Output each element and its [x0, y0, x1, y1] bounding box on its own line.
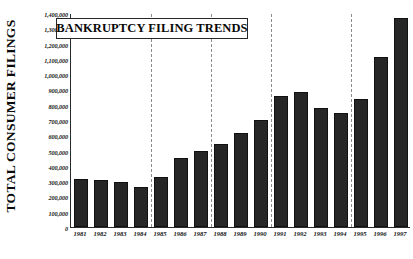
bar-slot [291, 14, 311, 227]
y-axis-tick-label: 400,000 [49, 163, 68, 170]
x-axis-tick-label: 1996 [370, 230, 390, 237]
x-axis-tick-label: 1990 [250, 230, 270, 237]
x-axis-tick-label: 1982 [90, 230, 110, 237]
bar-slot [351, 14, 371, 227]
y-axis-tick-label: 0 [65, 225, 68, 232]
x-axis-tick-label: 1983 [110, 230, 130, 237]
bar-slot [391, 14, 411, 227]
y-axis-tick-label: 800,000 [49, 102, 68, 109]
y-axis-tick-label: 300,000 [49, 179, 68, 186]
bar [214, 144, 227, 227]
bar-series [71, 14, 410, 227]
y-axis-title: TOTAL CONSUMER FILINGS [0, 0, 22, 232]
bar [274, 96, 287, 227]
x-axis-tick-label: 1994 [330, 230, 350, 237]
bar [194, 151, 207, 227]
bar-slot [151, 14, 171, 227]
y-axis-tick-label: 500,000 [49, 148, 68, 155]
x-axis-tick-label: 1991 [270, 230, 290, 237]
bar [374, 57, 387, 227]
x-axis-tick-label: 1995 [350, 230, 370, 237]
y-axis-tick-label: 600,000 [49, 133, 68, 140]
bar [94, 180, 107, 227]
y-axis-tick-label: 1,200,000 [44, 41, 68, 48]
bar [234, 133, 247, 227]
y-axis-tick-label: 700,000 [49, 118, 68, 125]
bar-slot [111, 14, 131, 227]
y-axis-tick-label: 100,000 [49, 209, 68, 216]
bar [74, 179, 87, 227]
bar-slot [251, 14, 271, 227]
bar [254, 120, 267, 227]
bar-slot [211, 14, 231, 227]
bar-slot [311, 14, 331, 227]
y-axis-tick-label: 1,400,000 [44, 11, 68, 18]
chart-title-box: BANKRUPTCY FILING TRENDS [56, 18, 248, 39]
bar [134, 187, 147, 228]
x-axis-tick-label: 1984 [130, 230, 150, 237]
x-axis-tick-label: 1997 [390, 230, 410, 237]
bar-slot [371, 14, 391, 227]
x-axis-tick-labels: 1981198219831984198519861987198819891990… [70, 230, 410, 246]
y-axis-title-text: TOTAL CONSUMER FILINGS [3, 20, 19, 213]
chart-title-text: BANKRUPTCY FILING TRENDS [56, 21, 247, 36]
y-axis-tick-label: 900,000 [49, 87, 68, 94]
x-axis-tick-label: 1988 [210, 230, 230, 237]
x-axis-tick-label: 1981 [70, 230, 90, 237]
bar [174, 158, 187, 227]
bar [394, 18, 407, 227]
x-axis-tick-label: 1993 [310, 230, 330, 237]
bar [114, 182, 127, 227]
plot-area [70, 14, 410, 228]
bar-slot [271, 14, 291, 227]
bar [294, 92, 307, 227]
x-axis-tick-label: 1992 [290, 230, 310, 237]
y-axis-tick-label: 1,000,000 [44, 72, 68, 79]
y-axis-tick-label: 1,100,000 [44, 56, 68, 63]
bar [334, 113, 347, 227]
bar [314, 108, 327, 227]
x-axis-tick-label: 1987 [190, 230, 210, 237]
y-axis-tick-label: 200,000 [49, 194, 68, 201]
x-axis-tick-label: 1985 [150, 230, 170, 237]
bar-slot [331, 14, 351, 227]
bar-slot [131, 14, 151, 227]
bar-slot [191, 14, 211, 227]
bar-slot [171, 14, 191, 227]
bar-slot [91, 14, 111, 227]
bankruptcy-filing-trends-chart: TOTAL CONSUMER FILINGS 0100,000200,00030… [0, 0, 413, 259]
bar-slot [231, 14, 251, 227]
x-axis-tick-label: 1986 [170, 230, 190, 237]
bar-slot [71, 14, 91, 227]
x-axis-tick-label: 1989 [230, 230, 250, 237]
bar [354, 99, 367, 227]
bar [154, 177, 167, 227]
